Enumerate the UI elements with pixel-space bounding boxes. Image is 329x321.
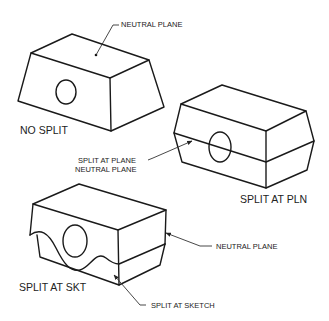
- neutral-plane-label-bottom: NEUTRAL PLANE: [216, 243, 277, 251]
- split-at-skt-caption: SPLIT AT SKT: [19, 282, 86, 293]
- split-at-pln-block: [148, 85, 314, 188]
- split-at-plane-label: SPLIT AT PLANE: [78, 157, 136, 165]
- split-at-pln-caption: SPLIT AT PLN: [240, 194, 307, 205]
- diagram-canvas: [0, 0, 329, 321]
- no-split-block: [18, 25, 164, 131]
- split-at-sketch-label: SPLIT AT SKETCH: [151, 302, 215, 310]
- neutral-plane-label-mid: NEUTRAL PLANE: [75, 166, 136, 174]
- no-split-caption: NO SPLIT: [20, 125, 68, 136]
- neutral-plane-label-top: NEUTRAL PLANE: [121, 21, 182, 29]
